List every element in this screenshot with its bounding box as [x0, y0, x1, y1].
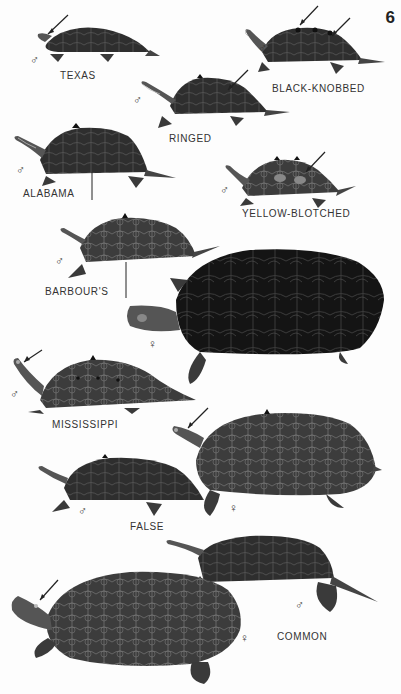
pointer-arrow — [48, 15, 68, 34]
label-texas: TEXAS — [60, 70, 96, 81]
pointer-arrow — [228, 70, 248, 90]
label-common: COMMON — [277, 631, 327, 642]
pointer-arrow — [306, 152, 325, 172]
label-yellow-blotched: YELLOW-BLOTCHED — [242, 208, 350, 219]
male-symbol-black-knobbed: ♂ — [258, 42, 267, 54]
male-symbol-ringed: ♂ — [133, 94, 142, 106]
pointer-arrow — [300, 6, 318, 25]
turtle-false-male — [38, 454, 204, 516]
label-black-knobbed: BLACK-KNOBBED — [272, 83, 365, 94]
male-symbol-common: ♂ — [295, 599, 304, 611]
label-mississippi: MISSISSIPPI — [52, 419, 118, 430]
label-false: FALSE — [130, 521, 164, 532]
male-symbol-mississippi: ♂ — [10, 388, 19, 400]
turtle-mississippi-male — [14, 350, 197, 414]
turtle-texas-male — [38, 15, 160, 62]
pointer-arrow — [188, 408, 208, 428]
label-ringed: RINGED — [169, 133, 212, 144]
female-symbol-false: ♀ — [229, 502, 238, 514]
field-guide-plate: 6 — [0, 0, 401, 694]
turtle-barbours-female — [127, 249, 384, 384]
turtle-false-female — [172, 408, 382, 516]
female-symbol-barbours: ♀ — [148, 338, 157, 350]
pointer-arrow — [24, 350, 42, 362]
pointer-arrow — [40, 580, 58, 600]
turtle-black-knobbed-male — [245, 6, 385, 74]
male-symbol-false: ♂ — [78, 505, 87, 517]
turtle-yellow-blotched-male — [226, 152, 357, 208]
turtle-ringed-male — [142, 70, 291, 128]
turtle-common-male — [166, 536, 378, 612]
turtle-illustrations — [0, 0, 401, 694]
female-symbol-common: ♀ — [240, 632, 249, 644]
male-symbol-alabama: ♂ — [16, 164, 25, 176]
label-barbours: BARBOUR'S — [45, 286, 108, 297]
label-alabama: ALABAMA — [23, 188, 74, 199]
male-symbol-texas: ♂ — [30, 54, 39, 66]
page-number: 6 — [386, 8, 395, 28]
male-symbol-yellow-blotched: ♂ — [220, 184, 229, 196]
male-symbol-barbours: ♂ — [55, 255, 64, 267]
turtle-common-female — [12, 572, 241, 684]
pointer-arrow — [332, 18, 350, 36]
